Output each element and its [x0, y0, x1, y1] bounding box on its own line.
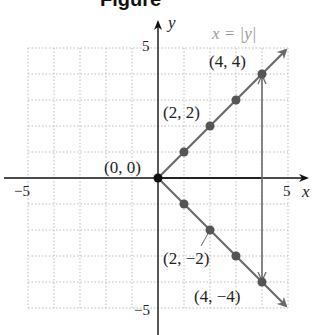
label-4-4: (4, 4) — [209, 52, 246, 71]
ytick-max: 5 — [142, 38, 150, 54]
x-axis-label: x — [301, 182, 310, 201]
curve-label: x = |y| — [211, 24, 256, 43]
label-4-m4: (4, −4) — [194, 287, 240, 306]
xtick-max: 5 — [283, 183, 291, 199]
label-0-0: (0, 0) — [104, 158, 141, 177]
chart: x = |y| (4, 4) (2, 2) (0, 0) (2, −2) (4,… — [0, 0, 315, 335]
label-2-m2: (2, −2) — [163, 249, 209, 268]
label-2-2: (2, 2) — [163, 103, 200, 122]
y-axis-label: y — [166, 13, 176, 32]
xtick-min: −5 — [14, 183, 30, 199]
ytick-min: −5 — [134, 302, 150, 318]
